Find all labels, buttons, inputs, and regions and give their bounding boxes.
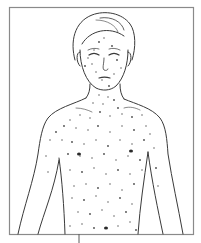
rash-spot	[135, 229, 137, 231]
left-clavicle	[76, 108, 92, 112]
rash-spot	[69, 225, 70, 226]
figure-outline	[18, 13, 183, 234]
rash-spot	[115, 159, 116, 160]
hair-fringe	[82, 30, 124, 44]
rash-spot	[119, 197, 121, 199]
rash-spot	[107, 96, 108, 97]
rash-spot	[102, 103, 103, 104]
rash-spot	[109, 131, 110, 132]
rash-spot	[111, 45, 113, 47]
rash-spot	[121, 125, 122, 126]
rash-spot	[155, 167, 157, 169]
right-torso	[138, 152, 148, 234]
rash-spot	[71, 197, 72, 198]
rash-spot	[113, 215, 114, 216]
rash-spot	[101, 79, 102, 80]
dark-spot	[129, 149, 133, 152]
medical-illustration	[0, 0, 201, 243]
rash-spot	[117, 225, 118, 226]
rash-spot	[55, 131, 57, 133]
rash-spot	[49, 139, 50, 140]
rash-spot	[117, 169, 119, 171]
nipples-navel	[77, 149, 133, 229]
rash-spot	[81, 171, 83, 173]
left-eye	[89, 54, 99, 56]
rash-spot	[143, 139, 145, 141]
rash-spot	[119, 139, 120, 140]
left-arm-inner	[38, 160, 59, 234]
dark-spot	[77, 152, 81, 155]
rash-spot	[69, 119, 70, 120]
right-arm-inner	[148, 152, 163, 234]
rash-spot	[101, 209, 102, 210]
rash-spot	[113, 99, 115, 101]
rash-spot	[79, 114, 80, 115]
hair	[73, 13, 135, 60]
rash-spot	[98, 94, 99, 95]
rash-spot	[95, 71, 96, 72]
nose	[103, 58, 108, 70]
rash-spot	[63, 125, 65, 127]
rash-spot	[131, 143, 132, 144]
right-eye	[109, 54, 119, 56]
rash-spot	[117, 107, 119, 109]
rash-spot	[93, 227, 95, 229]
rash-spot	[121, 189, 122, 190]
rash-spot	[98, 41, 100, 43]
rash-spot	[103, 37, 104, 38]
rash-spot	[107, 145, 109, 147]
rash-spot	[149, 133, 150, 134]
neck-right	[120, 84, 124, 99]
rash-spot	[95, 139, 96, 140]
rash-spot	[141, 169, 142, 170]
rash-spot	[129, 173, 130, 174]
rash-spot	[47, 171, 48, 172]
rash-spot	[67, 153, 69, 155]
rash-spot	[116, 59, 118, 61]
rash-spot	[113, 73, 114, 74]
rash-spot	[91, 157, 92, 158]
rash-spot	[71, 141, 73, 143]
rash-spot	[69, 169, 70, 170]
rash-spot	[99, 111, 101, 113]
rash-spot	[83, 143, 84, 144]
rash-spot	[97, 125, 99, 127]
rash-spot	[45, 155, 46, 156]
rash-spot	[109, 115, 110, 116]
right-ear	[128, 52, 131, 66]
frame-border	[10, 8, 194, 235]
rash-spot	[89, 117, 90, 118]
rash-spot	[107, 201, 108, 202]
rash-spot	[133, 183, 135, 185]
rash-spot	[75, 127, 76, 128]
left-torso	[59, 158, 65, 234]
rash-spot	[141, 114, 142, 115]
rash-spot	[131, 116, 133, 118]
right-clavicle	[124, 107, 140, 110]
rash-spot	[95, 195, 96, 196]
rash-spot	[103, 153, 105, 155]
rash-spot	[109, 183, 110, 184]
rash-spot	[153, 147, 154, 148]
right-brow	[109, 48, 120, 50]
rash-spot	[85, 183, 86, 184]
rash-spot	[157, 185, 158, 186]
rash-spot	[105, 173, 106, 174]
left-shoulder-arm-outer	[18, 98, 86, 234]
rash-spot	[127, 155, 128, 156]
rash-spot	[145, 125, 146, 126]
rash-spot	[87, 129, 88, 130]
rash-spot	[139, 159, 141, 161]
rash-spot	[120, 67, 121, 68]
rash-spot	[61, 139, 62, 140]
rash-spot	[133, 129, 135, 131]
rash-spot	[129, 221, 130, 222]
rash-spot	[83, 199, 85, 201]
right-shoulder-arm-outer	[124, 99, 183, 234]
rash-spot	[84, 65, 86, 67]
rash-spot	[108, 85, 110, 87]
mouth	[99, 77, 110, 78]
rash-spot	[92, 102, 93, 103]
rash-spot	[125, 211, 127, 213]
dark-spot	[104, 226, 108, 229]
